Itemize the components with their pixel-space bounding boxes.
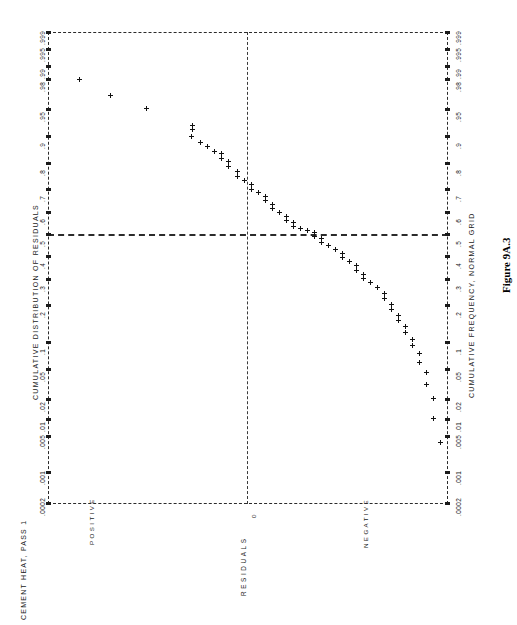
- data-point: [284, 218, 289, 223]
- prob-tick-label-right-p6: .6: [455, 219, 462, 225]
- data-point: [298, 226, 303, 231]
- prob-tick-label-right-p95: .95: [455, 112, 462, 122]
- prob-tick-label-right-p005: .005: [455, 435, 462, 449]
- prob-tick-label-right-p01: .01: [455, 422, 462, 432]
- prob-tick-label-right-p0002: .0002: [455, 498, 462, 516]
- prob-tick-left-p0002: [46, 502, 51, 505]
- data-point: [270, 206, 275, 211]
- data-point: [249, 187, 254, 192]
- data-point: [242, 178, 247, 183]
- prob-tick-label-left-p01: .01: [39, 422, 46, 432]
- prob-tick-left-p9: [46, 135, 51, 138]
- data-point: [410, 337, 415, 342]
- data-point: [263, 198, 268, 203]
- data-point: [424, 382, 429, 387]
- prob-tick-left-p995: [46, 48, 51, 51]
- zero-residual-line: [247, 32, 248, 504]
- data-point: [205, 144, 210, 149]
- left-probability-spine: [48, 32, 49, 504]
- data-point: [368, 280, 373, 285]
- left-axis-title: CUMULATIVE DISTRIBUTION OF RESIDUALS: [32, 204, 39, 400]
- direction-label-positive: POSITIVE: [88, 497, 95, 545]
- data-point: [354, 268, 359, 273]
- plot-bottom-border: [48, 503, 448, 504]
- data-point: [212, 149, 217, 154]
- prob-tick-label-left-p95: .95: [39, 112, 46, 122]
- prob-tick-label-right-p02: .02: [455, 402, 462, 412]
- prob-tick-right-p001: [445, 471, 450, 474]
- prob-tick-label-right-p999: .999: [455, 31, 462, 45]
- prob-tick-label-right-p4: .4: [455, 263, 462, 269]
- prob-tick-left-p98: [46, 78, 51, 81]
- data-point: [291, 224, 296, 229]
- figure-number: Figure 9A.3: [500, 238, 512, 293]
- prob-tick-label-right-p1: .1: [455, 349, 462, 355]
- data-point: [382, 296, 387, 301]
- prob-tick-label-right-p9: .9: [455, 143, 462, 149]
- data-point: [326, 243, 331, 248]
- data-point: [77, 77, 82, 82]
- figure-root: CEMENT HEAT, PASS 1 CUMULATIVE DISTRIBUT…: [0, 0, 517, 625]
- prob-tick-label-right-p995: .995: [455, 48, 462, 62]
- data-point: [198, 140, 203, 145]
- prob-tick-label-right-p2: .2: [455, 312, 462, 318]
- prob-tick-label-left-p99: .99: [39, 69, 46, 79]
- prob-tick-label-left-p5: .5: [39, 241, 46, 247]
- prob-tick-label-left-p995: .995: [39, 48, 46, 62]
- prob-tick-left-p7: [46, 188, 51, 191]
- data-point: [417, 360, 422, 365]
- right-axis-title: CUMULATIVE FREQUENCY, NORMAL GRID: [468, 212, 475, 398]
- data-point: [431, 396, 436, 401]
- data-point: [340, 255, 345, 260]
- prob-tick-label-left-p2: .2: [39, 312, 46, 318]
- prob-tick-left-p01: [46, 418, 51, 421]
- data-point: [312, 234, 317, 239]
- prob-tick-left-p999: [46, 31, 51, 34]
- prob-tick-label-left-p1: .1: [39, 349, 46, 355]
- prob-tick-right-p95: [445, 108, 450, 111]
- prob-tick-label-left-p7: .7: [39, 196, 46, 202]
- data-point: [219, 156, 224, 161]
- data-point: [417, 351, 422, 356]
- data-point: [108, 93, 113, 98]
- prob-tick-right-p1: [445, 341, 450, 344]
- data-point: [256, 190, 261, 195]
- prob-tick-right-p9: [445, 135, 450, 138]
- prob-tick-label-left-p8: .8: [39, 170, 46, 176]
- prob-tick-left-p5: [46, 233, 51, 236]
- figure-header-label: CEMENT HEAT, PASS 1: [20, 520, 27, 620]
- prob-tick-label-right-p05: .05: [455, 372, 462, 382]
- data-point: [277, 210, 282, 215]
- data-point: [189, 134, 194, 139]
- prob-tick-left-p2: [46, 304, 51, 307]
- data-point: [226, 164, 231, 169]
- prob-tick-right-p3: [445, 278, 450, 281]
- prob-tick-label-left-p05: .05: [39, 372, 46, 382]
- prob-tick-left-p1: [46, 341, 51, 344]
- prob-tick-label-left-p4: .4: [39, 263, 46, 269]
- prob-tick-right-p6: [445, 211, 450, 214]
- prob-tick-label-right-p001: .001: [455, 471, 462, 485]
- prob-tick-right-p05: [445, 368, 450, 371]
- data-point: [431, 416, 436, 421]
- prob-tick-left-p4: [46, 255, 51, 258]
- prob-tick-left-p02: [46, 398, 51, 401]
- prob-tick-right-p4: [445, 255, 450, 258]
- data-point: [375, 285, 380, 290]
- prob-tick-label-right-p7: .7: [455, 196, 462, 202]
- prob-tick-right-p2: [445, 304, 450, 307]
- direction-label-negative: NEGATIVE: [362, 498, 369, 548]
- prob-tick-label-right-p3: .3: [455, 286, 462, 292]
- prob-tick-right-p02: [445, 398, 450, 401]
- prob-tick-right-p99: [445, 65, 450, 68]
- prob-tick-right-p7: [445, 188, 450, 191]
- prob-tick-right-p8: [445, 162, 450, 165]
- data-point: [396, 318, 401, 323]
- plot-top-border: [48, 32, 448, 33]
- prob-tick-label-left-p0002: .0002: [39, 498, 46, 516]
- prob-tick-label-right-p98: .98: [455, 82, 462, 92]
- prob-tick-right-p5: [445, 233, 450, 236]
- prob-tick-right-p98: [445, 78, 450, 81]
- data-point: [144, 106, 149, 111]
- prob-tick-left-p001: [46, 471, 51, 474]
